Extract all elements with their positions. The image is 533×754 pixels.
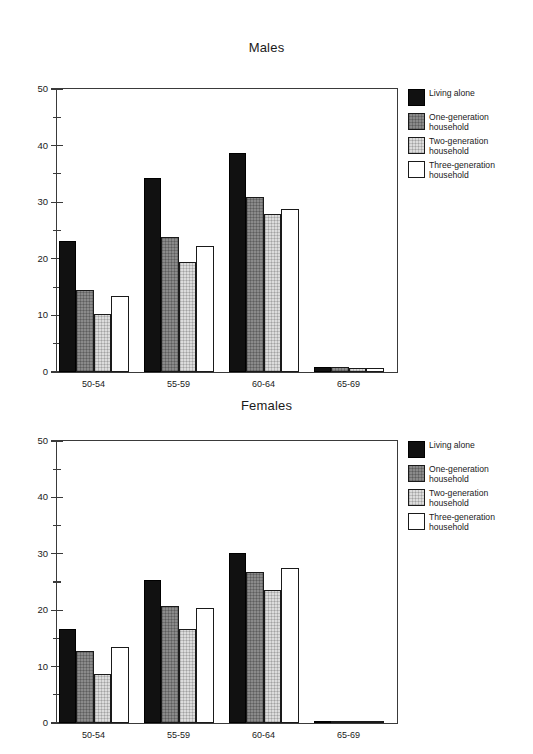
- bar: [94, 674, 112, 723]
- legend-item: One-generation household: [408, 464, 526, 486]
- y-axis-tick-label: 20: [37, 254, 48, 264]
- bar: [76, 651, 94, 723]
- bar: [144, 178, 162, 372]
- legend-swatch-icon: [408, 161, 425, 178]
- legend-item: One-generation household: [408, 112, 526, 134]
- y-axis-tick-label: 40: [37, 141, 48, 151]
- legend-females: Living aloneOne-generation householdTwo-…: [408, 440, 526, 536]
- bar: [196, 246, 214, 372]
- y-axis-tick-major: [51, 440, 63, 441]
- legend-swatch-icon: [408, 113, 425, 130]
- chart-title-males: Males: [0, 40, 533, 55]
- bar: [281, 209, 299, 372]
- bar: [59, 629, 77, 723]
- legend-label: Three-generation household: [429, 160, 495, 180]
- chart-title-females: Females: [0, 398, 533, 413]
- legend-swatch-icon: [408, 465, 425, 482]
- legend-item: Two-generation household: [408, 488, 526, 510]
- x-axis-tick-label: 55-59: [167, 731, 190, 740]
- bar: [246, 197, 264, 372]
- y-axis-tick-label: 30: [37, 197, 48, 207]
- y-axis-tick-label: 50: [37, 436, 48, 446]
- y-axis-tick-label: 0: [43, 718, 48, 728]
- bar: [179, 262, 197, 372]
- bar: [366, 368, 384, 372]
- legend-item: Two-generation household: [408, 136, 526, 158]
- y-axis-tick-minor: [53, 469, 61, 470]
- legend-swatch-icon: [408, 137, 425, 154]
- y-axis-tick-minor: [53, 117, 61, 118]
- y-axis-tick-minor: [53, 230, 61, 231]
- bar: [161, 237, 179, 372]
- y-axis-tick-major: [51, 202, 63, 203]
- x-axis-tick-label: 60-64: [252, 380, 275, 389]
- bar: [314, 721, 332, 723]
- legend-label: Two-generation household: [429, 488, 488, 508]
- y-axis-tick-label: 30: [37, 549, 48, 559]
- bar: [229, 553, 247, 723]
- x-axis-tick-label: 55-59: [167, 380, 190, 389]
- legend-item: Three-generation household: [408, 160, 526, 182]
- legend-males: Living aloneOne-generation householdTwo-…: [408, 88, 526, 184]
- y-axis-tick-label: 50: [37, 84, 48, 94]
- bar: [264, 590, 282, 723]
- chart-panel-females: Females 0102030405050-5455-5960-6465-69 …: [0, 392, 533, 754]
- bar: [111, 647, 129, 723]
- legend-swatch-icon: [408, 441, 425, 458]
- x-axis-tick-label: 60-64: [252, 731, 275, 740]
- legend-swatch-icon: [408, 89, 425, 106]
- legend-item: Living alone: [408, 440, 526, 462]
- bar: [246, 572, 264, 723]
- y-axis-tick-minor: [53, 581, 61, 582]
- x-axis-tick-label: 50-54: [82, 380, 105, 389]
- bar: [331, 367, 349, 372]
- y-axis-tick-major: [51, 497, 63, 498]
- y-axis-tick-label: 40: [37, 493, 48, 503]
- bar: [314, 367, 332, 372]
- y-axis-tick-major: [51, 610, 63, 611]
- y-axis-tick-minor: [53, 525, 61, 526]
- bar: [179, 629, 197, 723]
- legend-swatch-icon: [408, 489, 425, 506]
- y-axis-tick-major: [51, 553, 63, 554]
- bar: [349, 721, 367, 723]
- plot-area-females: 0102030405050-5455-5960-6465-69: [56, 440, 398, 724]
- bar: [111, 296, 129, 372]
- bar: [281, 568, 299, 723]
- legend-label: One-generation household: [429, 464, 489, 484]
- legend-label: One-generation household: [429, 112, 489, 132]
- legend-item: Living alone: [408, 88, 526, 110]
- bar: [229, 153, 247, 372]
- legend-label: Living alone: [429, 440, 475, 451]
- legend-label: Two-generation household: [429, 136, 488, 156]
- bar: [264, 214, 282, 372]
- bar: [59, 241, 77, 372]
- y-axis-tick-label: 20: [37, 605, 48, 615]
- y-axis-tick-major: [51, 88, 63, 89]
- bar: [94, 314, 112, 372]
- chart-panel-males: Males 0102030405050-5455-5960-6465-69 Li…: [0, 0, 533, 392]
- bar: [161, 606, 179, 723]
- bar: [76, 290, 94, 372]
- legend-item: Three-generation household: [408, 512, 526, 534]
- bar: [349, 368, 367, 372]
- bar: [196, 608, 214, 723]
- legend-label: Living alone: [429, 88, 475, 99]
- y-axis-tick-label: 0: [43, 367, 48, 377]
- bar: [331, 721, 349, 723]
- y-axis-tick-major: [51, 145, 63, 146]
- y-axis-tick-label: 10: [37, 662, 48, 672]
- y-axis-tick-label: 10: [37, 311, 48, 321]
- bar: [366, 721, 384, 723]
- legend-swatch-icon: [408, 513, 425, 530]
- x-axis-tick-label: 50-54: [82, 731, 105, 740]
- y-axis-tick-minor: [53, 173, 61, 174]
- x-axis-tick-label: 65-69: [337, 380, 360, 389]
- bar: [144, 580, 162, 723]
- plot-area-males: 0102030405050-5455-5960-6465-69: [56, 88, 398, 373]
- x-axis-tick-label: 65-69: [337, 731, 360, 740]
- legend-label: Three-generation household: [429, 512, 495, 532]
